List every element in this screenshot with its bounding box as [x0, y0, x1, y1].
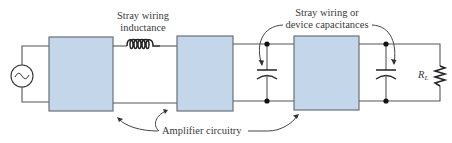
amplifier-block-3 — [294, 36, 359, 110]
stray-capacitor-1 — [257, 41, 277, 103]
stray-inductor — [127, 40, 177, 49]
junction-dot — [264, 41, 269, 46]
amplifier-block-1 — [49, 37, 113, 111]
capacitance-label-line1: Stray wiring or — [295, 7, 359, 18]
junction-dot — [383, 41, 388, 46]
amplifier-label: Amplifier circuitry — [162, 125, 242, 136]
inductance-label-line2: inductance — [120, 22, 166, 33]
junction-dot — [264, 98, 269, 103]
amplifier-stray-elements-diagram: RL Stray wiring inductance Stray wiring … — [0, 0, 452, 143]
stray-capacitor-2 — [376, 41, 396, 103]
amplifier-block-2 — [177, 36, 233, 111]
capacitance-label-line2: device capacitances — [285, 19, 368, 30]
inductance-label-line1: Stray wiring — [117, 10, 170, 21]
load-resistor-label: RL — [417, 69, 428, 82]
junction-dot — [383, 98, 388, 103]
load-resistor — [435, 66, 445, 86]
ac-source — [11, 46, 49, 102]
